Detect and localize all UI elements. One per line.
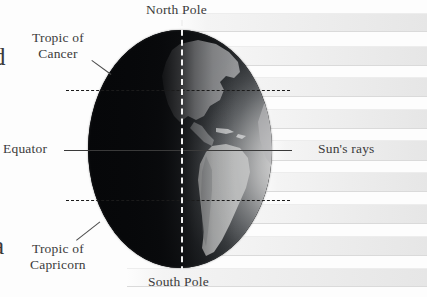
tropic-of-cancer-line <box>66 90 290 91</box>
label-suns-rays: Sun's rays <box>318 141 375 157</box>
label-south-pole: South Pole <box>148 274 209 290</box>
cropped-text-fragment-bottom: a <box>0 233 4 258</box>
label-tropic-of-capricorn: Tropic of Capricorn <box>30 241 86 272</box>
sun-ray-band <box>177 14 427 31</box>
polar-axis-line <box>181 20 183 282</box>
sun-ray-band <box>252 110 427 128</box>
label-north-pole: North Pole <box>146 2 207 18</box>
tropic-of-capricorn-line <box>66 200 290 201</box>
equator-line <box>64 150 292 151</box>
earth-globe <box>88 30 272 268</box>
label-equator: Equator <box>3 141 47 157</box>
sun-ray-band <box>257 173 427 191</box>
cropped-text-fragment-top: d <box>0 44 6 69</box>
globe-sphere <box>88 30 272 268</box>
continents-americas <box>88 30 272 268</box>
label-tropic-of-cancer: Tropic of Cancer <box>32 30 84 61</box>
diagram-canvas: North Pole South Pole Equator Sun's rays… <box>0 0 427 297</box>
